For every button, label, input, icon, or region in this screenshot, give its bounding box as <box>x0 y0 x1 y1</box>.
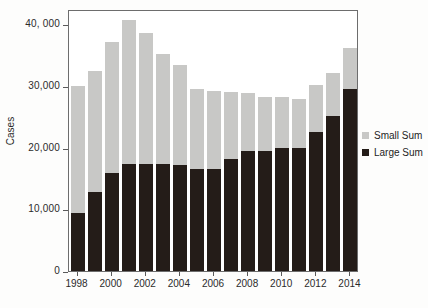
bar-segment-small-sum <box>71 86 85 213</box>
bar-column <box>207 91 221 271</box>
bar-segment-large-sum <box>224 159 238 271</box>
bar-column <box>88 71 102 271</box>
y-axis-tick-label: 0 <box>54 265 60 276</box>
bar-segment-large-sum <box>122 164 136 271</box>
legend-item: Large Sum <box>362 145 426 160</box>
x-axis: 199820002002200420062008201020122014 <box>68 272 358 298</box>
x-axis-tick-mark <box>77 272 78 276</box>
bar-column <box>343 48 357 271</box>
bar-column <box>258 97 272 271</box>
bar-segment-large-sum <box>241 151 255 271</box>
bar-column <box>71 86 85 271</box>
x-axis-tick-label: 2006 <box>202 278 224 289</box>
x-axis-tick-mark <box>179 272 180 276</box>
legend-item: Small Sum <box>362 128 426 143</box>
bar-group <box>69 11 357 271</box>
y-axis-tick-label: 10,000 <box>28 203 60 214</box>
x-axis-tick-label: 2012 <box>304 278 326 289</box>
legend-swatch-small-sum <box>362 132 369 139</box>
bar-segment-large-sum <box>88 192 102 271</box>
bar-segment-small-sum <box>156 54 170 164</box>
x-axis-tick-label: 2014 <box>338 278 360 289</box>
bar-segment-large-sum <box>275 148 289 271</box>
bar-segment-small-sum <box>343 48 357 89</box>
bar-column <box>241 93 255 271</box>
x-axis-tick-label: 2004 <box>168 278 190 289</box>
y-axis-title: Cases <box>5 101 16 161</box>
x-axis-tick-mark <box>281 272 282 276</box>
bar-segment-small-sum <box>258 97 272 151</box>
chart-legend: Small SumLarge Sum <box>362 128 426 162</box>
bar-segment-large-sum <box>71 213 85 271</box>
bar-column <box>292 99 306 271</box>
figure-container: Cases 010,00020,00030,00040, 000 1998200… <box>0 0 428 308</box>
bar-segment-large-sum <box>105 173 119 271</box>
bar-segment-large-sum <box>326 116 340 271</box>
bar-column <box>156 54 170 271</box>
bar-segment-large-sum <box>207 169 221 271</box>
legend-swatch-large-sum <box>362 149 369 156</box>
bar-segment-large-sum <box>173 165 187 271</box>
bar-column <box>105 42 119 271</box>
y-axis-tick-label: 40, 000 <box>25 18 60 29</box>
x-axis-tick-label: 2002 <box>134 278 156 289</box>
bar-segment-large-sum <box>156 164 170 271</box>
bar-column <box>224 92 238 271</box>
x-axis-tick-mark <box>349 272 350 276</box>
bar-segment-small-sum <box>105 42 119 173</box>
x-axis-tick-mark <box>111 272 112 276</box>
x-axis-tick-label: 1998 <box>65 278 87 289</box>
x-axis-tick-label: 2000 <box>100 278 122 289</box>
bar-segment-large-sum <box>309 132 323 271</box>
y-axis: Cases 010,00020,00030,00040, 000 <box>0 0 68 282</box>
bar-segment-small-sum <box>122 20 136 164</box>
bar-segment-small-sum <box>88 71 102 192</box>
plot-area <box>68 10 358 272</box>
bar-segment-small-sum <box>309 85 323 132</box>
legend-item-label: Small Sum <box>374 130 422 141</box>
bar-segment-small-sum <box>190 89 204 169</box>
bar-column <box>139 33 153 271</box>
bar-segment-large-sum <box>258 151 272 271</box>
x-axis-tick-mark <box>247 272 248 276</box>
bar-column <box>275 97 289 271</box>
bar-column <box>309 85 323 271</box>
bar-segment-large-sum <box>190 169 204 271</box>
bar-column <box>173 65 187 271</box>
legend-item-label: Large Sum <box>374 147 423 158</box>
x-axis-tick-mark <box>145 272 146 276</box>
bar-segment-large-sum <box>343 89 357 271</box>
x-axis-tick-mark <box>315 272 316 276</box>
bar-segment-small-sum <box>139 33 153 164</box>
bar-segment-small-sum <box>173 65 187 165</box>
x-axis-tick-label: 2008 <box>236 278 258 289</box>
bar-segment-small-sum <box>275 97 289 149</box>
bar-segment-small-sum <box>326 73 340 117</box>
x-axis-tick-mark <box>213 272 214 276</box>
bar-column <box>190 89 204 271</box>
y-axis-tick-label: 20,000 <box>28 142 60 153</box>
bar-column <box>326 73 340 272</box>
bar-segment-large-sum <box>292 148 306 271</box>
bar-segment-large-sum <box>139 164 153 271</box>
x-axis-tick-label: 2010 <box>270 278 292 289</box>
y-axis-tick-label: 30,000 <box>28 80 60 91</box>
bar-segment-small-sum <box>224 92 238 159</box>
bar-column <box>122 20 136 271</box>
bar-segment-small-sum <box>241 93 255 152</box>
bar-segment-small-sum <box>292 99 306 148</box>
bar-segment-small-sum <box>207 91 221 169</box>
